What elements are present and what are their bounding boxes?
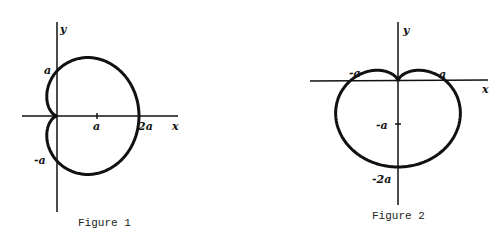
label-a-x: a [439,68,446,81]
y-axis-label: y [402,24,411,37]
x-axis-label: x [171,120,179,133]
label-a-y: a [44,64,51,77]
figures-canvas: y x a -a a 2a Figure 1 y x -a a -a -2a F… [0,0,502,232]
label-neg-a-y: -a [376,119,388,132]
x-axis-label: x [481,83,489,96]
label-neg-a-y: -a [34,154,46,167]
figure-1: y x a -a a 2a Figure 1 [22,22,179,229]
label-a-x: a [93,120,100,133]
caption: Figure 1 [78,217,131,229]
y-axis-label: y [59,23,68,36]
label-neg-2a-y: -2a [372,173,391,186]
label-2a-x: 2a [137,120,153,133]
figure-2: y x -a a -a -2a Figure 2 [310,22,489,222]
label-neg-a-x: -a [349,67,361,80]
caption: Figure 2 [372,210,425,222]
